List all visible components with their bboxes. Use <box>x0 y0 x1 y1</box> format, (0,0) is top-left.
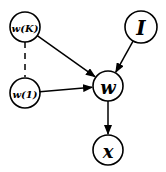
node-x: x <box>93 135 123 165</box>
node-w1: w(1) <box>10 78 40 108</box>
edge-I-to-w <box>116 41 133 72</box>
node-label: I <box>135 16 146 40</box>
node-label: w(K) <box>12 23 39 34</box>
node-w: w <box>93 71 123 101</box>
node-label: w <box>100 77 117 98</box>
node-wK: w(K) <box>10 12 40 42</box>
edge-wK-to-w <box>37 36 95 77</box>
edge-w1-to-w <box>40 87 92 91</box>
node-label: w(1) <box>12 89 37 100</box>
graphical-model-diagram: w(K)w(1)Iwx <box>0 0 166 172</box>
node-I: I <box>125 11 157 43</box>
node-label: x <box>102 141 114 162</box>
